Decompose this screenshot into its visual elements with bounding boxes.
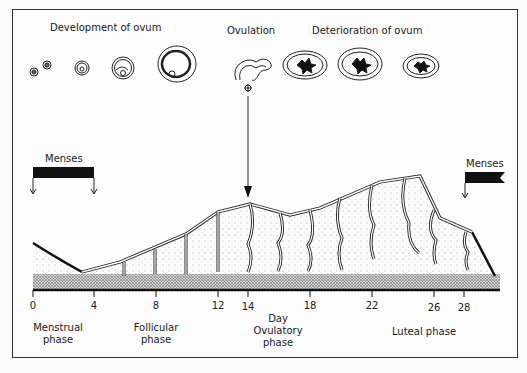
tick-28: 28 bbox=[458, 302, 471, 314]
tick-12: 12 bbox=[212, 300, 225, 312]
endometrium-curve bbox=[33, 176, 500, 290]
menses-right-label: Menses bbox=[466, 158, 504, 170]
menses-right-marker bbox=[462, 172, 505, 198]
tick-18: 18 bbox=[304, 300, 317, 312]
axis-title-day: Day bbox=[268, 313, 288, 325]
luteal-phase-label: Luteal phase bbox=[392, 326, 456, 338]
ovulatory-phase-label: Ovulatory phase bbox=[253, 325, 302, 349]
menstrual-cycle-diagram bbox=[0, 0, 527, 373]
tick-14: 14 bbox=[242, 301, 255, 313]
ovum-development-icons bbox=[30, 46, 196, 82]
menses-left-marker bbox=[30, 167, 97, 194]
ovum-deterioration-icons bbox=[283, 48, 439, 80]
tick-0: 0 bbox=[30, 300, 36, 312]
tick-4: 4 bbox=[91, 300, 97, 312]
day-axis bbox=[33, 290, 500, 297]
follicular-phase-label: Follicular phase bbox=[134, 322, 179, 346]
ovulation-arrow bbox=[244, 96, 252, 198]
tick-8: 8 bbox=[153, 300, 159, 312]
ovulation-label: Ovulation bbox=[227, 25, 275, 37]
menses-left-label: Menses bbox=[45, 153, 83, 165]
tick-26: 26 bbox=[428, 302, 441, 314]
tick-22: 22 bbox=[366, 300, 379, 312]
ovulation-icon bbox=[235, 59, 271, 92]
development-label: Development of ovum bbox=[50, 22, 161, 34]
menstrual-phase-label: Menstrual phase bbox=[33, 322, 83, 346]
deterioration-label: Deterioration of ovum bbox=[312, 25, 422, 37]
